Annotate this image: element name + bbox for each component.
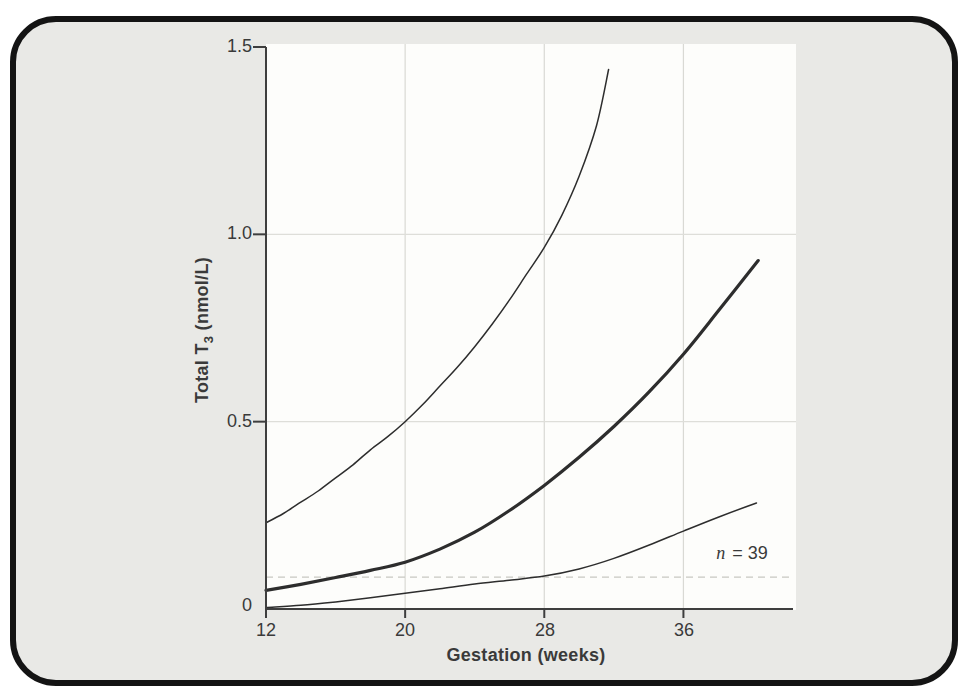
chart-canvas [0, 0, 968, 694]
x-axis-title: Gestation (weeks) [446, 645, 605, 666]
x-tick-label-28: 28 [535, 620, 555, 641]
x-tick-label-36: 36 [674, 620, 694, 641]
x-tick-label-20: 20 [395, 620, 415, 641]
plot-area [266, 44, 796, 610]
y-tick-label-0: 0 [206, 595, 252, 616]
y-axis-title-suffix: (nmol/L) [192, 257, 212, 336]
figure-page: 1.5 1.0 0.5 0 12 20 28 36 Total T3 (nmol… [0, 0, 968, 694]
annotation-variable: n [716, 543, 727, 563]
y-axis-title-prefix: Total T [192, 343, 212, 403]
annotation-value: = 39 [727, 543, 768, 563]
x-tick-label-12: 12 [256, 620, 276, 641]
sample-size-annotation: n = 39 [716, 543, 768, 564]
y-axis-title: Total T3 (nmol/L) [192, 257, 216, 403]
y-axis-title-subscript: 3 [201, 336, 216, 344]
y-tick-label-1.5: 1.5 [206, 36, 252, 57]
y-tick-label-0.5: 0.5 [206, 411, 252, 432]
y-tick-label-1.0: 1.0 [206, 223, 252, 244]
